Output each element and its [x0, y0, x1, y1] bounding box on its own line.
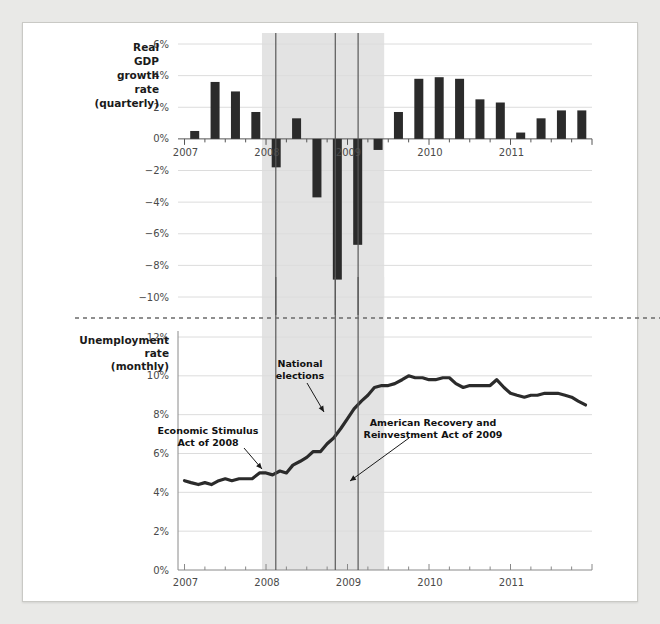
- gdp-bar: [190, 131, 199, 139]
- ytick-unemployment: 2%: [153, 526, 169, 537]
- ytick-gdp: −4%: [145, 197, 169, 208]
- gdp-bar: [333, 139, 342, 280]
- gdp-bar: [475, 99, 484, 139]
- annotation-national-elections-line: National: [277, 358, 322, 369]
- xtick-label-gdp: 2009: [336, 147, 361, 158]
- gdp-bar: [496, 103, 505, 139]
- annotation-national-elections-line: elections: [276, 370, 325, 381]
- xtick-label-unemployment: 2008: [254, 577, 279, 588]
- ytick-gdp: 0%: [153, 133, 169, 144]
- annotation-arra-line: Reinvestment Act of 2009: [364, 429, 503, 440]
- unemployment-axis-title-line: (monthly): [111, 360, 169, 372]
- unemployment-axis-title-line: rate: [145, 347, 169, 359]
- xtick-label-unemployment: 2009: [336, 577, 361, 588]
- recession-band-bottom: [262, 277, 384, 570]
- ytick-unemployment: 4%: [153, 487, 169, 498]
- xtick-label-unemployment: 2011: [499, 577, 524, 588]
- xtick-label-gdp: 2007: [173, 147, 198, 158]
- xtick-label-unemployment: 2007: [173, 577, 198, 588]
- ytick-gdp: −6%: [145, 228, 169, 239]
- gdp-axis-title-line: GDP: [134, 55, 159, 67]
- gdp-bar: [394, 112, 403, 139]
- ytick-unemployment: 8%: [153, 409, 169, 420]
- gdp-bar: [292, 118, 301, 139]
- ytick-gdp: −10%: [138, 292, 169, 303]
- dual-panel-economic-chart: 6%4%2%0%−2%−4%−6%−8%−10%2007200820092010…: [0, 0, 660, 624]
- gdp-bar: [414, 79, 423, 139]
- gdp-bar: [435, 77, 444, 139]
- annotation-arra-line: American Recovery and: [370, 417, 496, 428]
- gdp-axis-title-line: rate: [135, 83, 159, 95]
- gdp-bar: [577, 110, 586, 138]
- gdp-bar: [516, 133, 525, 139]
- gdp-axis-title-line: (quarterly): [94, 97, 159, 109]
- gdp-bar: [231, 91, 240, 138]
- gdp-bar: [251, 112, 260, 139]
- gdp-bar: [557, 110, 566, 138]
- annotation-economic-stimulus-line: Act of 2008: [177, 437, 239, 448]
- annotation-economic-stimulus-line: Economic Stimulus: [157, 425, 258, 436]
- ytick-gdp: −8%: [145, 260, 169, 271]
- ytick-gdp: −2%: [145, 165, 169, 176]
- gdp-axis-title-line: Real: [133, 41, 159, 53]
- unemployment-axis-title-line: Unemployment: [79, 334, 169, 346]
- gdp-bar: [537, 118, 546, 139]
- xtick-label-gdp: 2011: [499, 147, 524, 158]
- gdp-bar: [374, 139, 383, 150]
- ytick-unemployment: 0%: [153, 565, 169, 576]
- gdp-bar: [312, 139, 321, 198]
- ytick-unemployment: 6%: [153, 448, 169, 459]
- xtick-label-gdp: 2010: [417, 147, 442, 158]
- xtick-label-unemployment: 2010: [417, 577, 442, 588]
- gdp-axis-title-line: growth: [117, 69, 159, 81]
- economic-dashboard: 6%4%2%0%−2%−4%−6%−8%−10%2007200820092010…: [0, 0, 660, 624]
- gdp-bar: [211, 82, 220, 139]
- gdp-bar: [455, 79, 464, 139]
